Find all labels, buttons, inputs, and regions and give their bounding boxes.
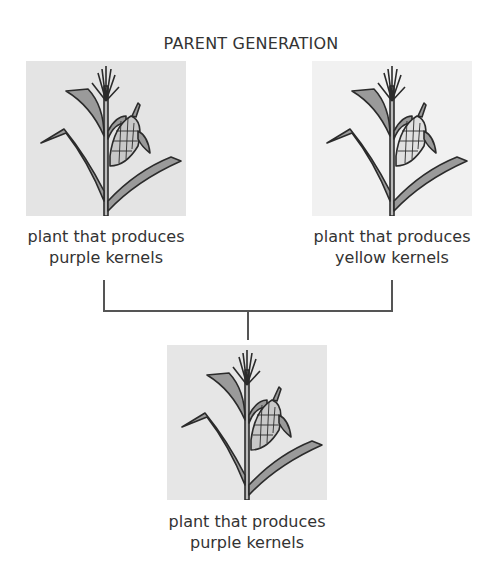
caption-line: plant that produces bbox=[0, 226, 216, 247]
caption-line: purple kernels bbox=[137, 532, 357, 553]
corn-plant-icon bbox=[26, 61, 186, 216]
caption-line: plant that produces bbox=[282, 226, 502, 247]
connector-center bbox=[247, 310, 249, 340]
caption-line: plant that produces bbox=[137, 511, 357, 532]
corn-plant-icon bbox=[167, 345, 327, 500]
offspring-corn-image bbox=[167, 345, 327, 500]
offspring-caption: plant that produces purple kernels bbox=[137, 511, 357, 553]
diagram-title: PARENT GENERATION bbox=[0, 34, 502, 53]
caption-line: yellow kernels bbox=[282, 247, 502, 268]
parent-yellow-caption: plant that produces yellow kernels bbox=[282, 226, 502, 268]
caption-line: purple kernels bbox=[0, 247, 216, 268]
connector-right bbox=[391, 280, 393, 311]
parent-purple-caption: plant that produces purple kernels bbox=[0, 226, 216, 268]
parent-purple-corn-image bbox=[26, 61, 186, 216]
connector-left bbox=[103, 280, 105, 311]
corn-plant-icon bbox=[312, 61, 472, 216]
parent-yellow-corn-image bbox=[312, 61, 472, 216]
